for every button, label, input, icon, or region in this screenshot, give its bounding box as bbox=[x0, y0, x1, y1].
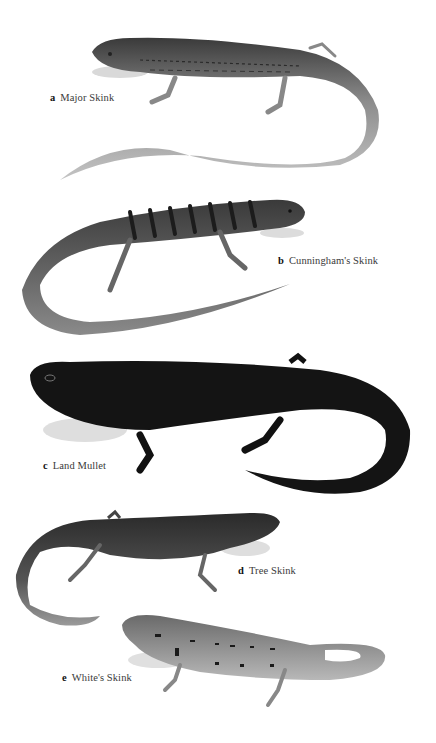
specimen-letter: d bbox=[238, 565, 244, 576]
specimen-name: Cunningham's Skink bbox=[289, 255, 378, 266]
specimen-label-e: eWhite's Skink bbox=[62, 672, 132, 683]
specimen-label-c: cLand Mullet bbox=[43, 460, 106, 471]
specimen-name: White's Skink bbox=[72, 672, 132, 683]
specimen-label-d: dTree Skink bbox=[238, 565, 296, 576]
specimen-letter: b bbox=[278, 255, 284, 266]
lizard-major-skink bbox=[60, 38, 379, 180]
specimen-name: Major Skink bbox=[60, 92, 114, 103]
skink-illustration-plate: aMajor Skink bCunningham's Skink cLand M… bbox=[0, 0, 436, 743]
specimen-label-a: aMajor Skink bbox=[50, 92, 114, 103]
specimen-label-b: bCunningham's Skink bbox=[278, 255, 378, 266]
lizard-cunninghams-skink bbox=[22, 200, 305, 335]
specimen-letter: c bbox=[43, 460, 48, 471]
specimen-letter: e bbox=[62, 672, 67, 683]
specimen-letter: a bbox=[50, 92, 55, 103]
lizard-land-mullet bbox=[30, 356, 410, 494]
specimen-name: Tree Skink bbox=[249, 565, 296, 576]
specimen-name: Land Mullet bbox=[53, 460, 106, 471]
lizard-illustrations bbox=[0, 0, 436, 743]
lizard-whites-skink bbox=[122, 615, 385, 705]
